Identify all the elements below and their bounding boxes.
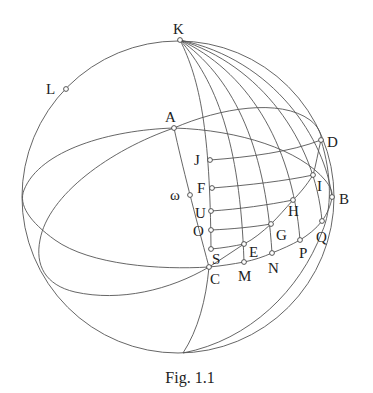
- point-I-marker: [311, 173, 316, 178]
- point-S-label: S: [212, 251, 220, 267]
- figure-1-1: KLADJIFωBHUQGOPESNMC Fig. 1.1: [0, 0, 373, 393]
- point-U-label: U: [195, 205, 206, 221]
- point-O-marker: [209, 228, 214, 233]
- point-B-label: B: [339, 191, 349, 207]
- point-C-label: C: [210, 271, 220, 287]
- figure-caption: Fig. 1.1: [165, 369, 214, 387]
- point-I-label: I: [317, 178, 322, 194]
- point-J-label: J: [194, 152, 200, 168]
- point-E-marker: [242, 242, 247, 247]
- point-omega-marker: [188, 193, 193, 198]
- point-O-label: O: [193, 223, 204, 239]
- point-N-marker: [270, 251, 275, 256]
- parallel-O-G: [211, 224, 271, 230]
- point-J-marker: [208, 158, 213, 163]
- point-Q-label: Q: [316, 229, 327, 245]
- point-P-marker: [298, 238, 303, 243]
- parallel-S-E: [211, 244, 244, 249]
- point-E-label: E: [249, 244, 258, 260]
- point-H-label: H: [288, 203, 299, 219]
- point-M-marker: [242, 260, 247, 265]
- point-Q-marker: [320, 219, 325, 224]
- point-M-label: M: [238, 268, 251, 284]
- parallel-U-H: [211, 200, 293, 211]
- point-K-marker: [178, 38, 183, 43]
- point-G-marker: [269, 222, 274, 227]
- point-A-marker: [172, 126, 177, 131]
- point-D-label: D: [327, 134, 338, 150]
- point-B-marker: [330, 195, 335, 200]
- parallel-J-D: [210, 140, 321, 160]
- point-P-label: P: [299, 245, 307, 261]
- point-K-label: K: [173, 21, 184, 37]
- point-F-marker: [210, 186, 215, 191]
- point-H-marker: [291, 198, 296, 203]
- point-G-label: G: [276, 227, 287, 243]
- point-U-marker: [209, 209, 214, 214]
- point-L-label: L: [46, 81, 55, 97]
- point-C-marker: [207, 265, 212, 270]
- celestial-sphere-diagram: KLADJIFωBHUQGOPESNMC Fig. 1.1: [0, 0, 373, 393]
- point-N-label: N: [268, 260, 279, 276]
- point-L-marker: [64, 87, 69, 92]
- point-A-label: A: [165, 109, 176, 125]
- point-F-label: F: [197, 180, 205, 196]
- point-omega-label: ω: [170, 187, 180, 203]
- meridian-K-N: [180, 40, 272, 253]
- meridian-A-C: [174, 128, 209, 353]
- points-layer: KLADJIFωBHUQGOPESNMC: [46, 21, 349, 287]
- point-D-marker: [319, 138, 324, 143]
